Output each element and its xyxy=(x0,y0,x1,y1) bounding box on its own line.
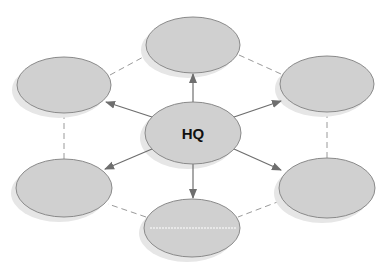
node-bottom-right[interactable] xyxy=(279,158,375,218)
dash-top-topright xyxy=(239,55,281,74)
dash-bottomright-bottom xyxy=(238,201,280,217)
arrow-to-top-right xyxy=(234,101,281,117)
arrow-to-top-left xyxy=(106,102,152,117)
arrow-to-bottom-right xyxy=(234,149,281,170)
node-top-right[interactable] xyxy=(280,56,374,112)
dash-topleft-top xyxy=(110,55,147,75)
node-top-left[interactable] xyxy=(17,57,111,113)
hq-label: HQ xyxy=(182,125,205,142)
node-top[interactable] xyxy=(146,17,240,73)
hub-diagram: HQ xyxy=(0,0,387,273)
node-bottom-left[interactable] xyxy=(16,159,112,217)
dash-bottom-bottomleft xyxy=(108,204,146,217)
arrow-to-bottom-left xyxy=(105,149,152,169)
